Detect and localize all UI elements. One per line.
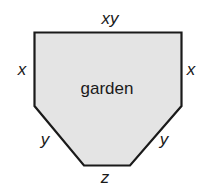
side-label-right: x bbox=[186, 60, 196, 79]
side-label-left: x bbox=[17, 60, 27, 79]
region-label: garden bbox=[81, 79, 134, 98]
side-label-top: xy bbox=[101, 9, 121, 28]
side-label-lower-left: y bbox=[40, 130, 51, 149]
garden-diagram: garden xy x x y y z bbox=[0, 0, 204, 193]
side-label-lower-right: y bbox=[159, 130, 170, 149]
side-label-bottom: z bbox=[100, 168, 110, 187]
